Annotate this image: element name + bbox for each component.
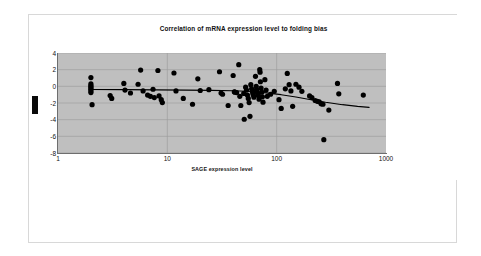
scatter-point bbox=[171, 70, 176, 75]
scatter-point bbox=[276, 97, 281, 102]
chart-title: Correlation of mRNA expression level to … bbox=[29, 24, 458, 33]
y-axis-tick-label: -6 bbox=[34, 133, 56, 140]
scatter-point bbox=[242, 117, 247, 122]
scatter-point bbox=[181, 96, 186, 101]
y-axis-tick-label: 0 bbox=[34, 83, 56, 90]
scatter-point bbox=[258, 79, 263, 84]
scatter-point bbox=[299, 89, 304, 94]
scatter-point bbox=[288, 88, 293, 93]
scatter-point bbox=[152, 95, 157, 100]
scatter-point bbox=[109, 96, 114, 101]
scatter-point bbox=[321, 137, 326, 142]
scatter-point bbox=[150, 87, 155, 92]
scatter-point bbox=[272, 89, 277, 94]
x-axis-line bbox=[58, 153, 387, 154]
scatter-point bbox=[231, 73, 236, 78]
scatter-point bbox=[89, 102, 94, 107]
scatter-point bbox=[190, 102, 195, 107]
scatter-point bbox=[326, 107, 331, 112]
horizontal-gridlines bbox=[58, 53, 386, 153]
scatter-point bbox=[217, 69, 222, 74]
y-axis-tick-label: -2 bbox=[34, 100, 56, 107]
y-axis-tick-label: -8 bbox=[34, 150, 56, 157]
scatter-point bbox=[285, 71, 290, 76]
scatter-point bbox=[155, 68, 160, 73]
scatter-point bbox=[361, 92, 366, 97]
scatter-point bbox=[160, 100, 165, 105]
y-axis-tick-label: 2 bbox=[34, 66, 56, 73]
scatter-point bbox=[336, 91, 341, 96]
scatter-point bbox=[226, 103, 231, 108]
scatter-point bbox=[257, 70, 262, 75]
scatter-point bbox=[260, 94, 265, 99]
scatter-point bbox=[335, 81, 340, 86]
scatter-point bbox=[247, 100, 252, 105]
scatter-point bbox=[135, 82, 140, 87]
scatter-point bbox=[173, 88, 178, 93]
document-page-frame: Correlation of mRNA expression level to … bbox=[28, 14, 457, 243]
scatter-point bbox=[262, 77, 267, 82]
scatter-point bbox=[138, 67, 143, 72]
x-axis-tick-label: 100 bbox=[271, 155, 282, 163]
x-axis-tick-label: 1000 bbox=[379, 155, 393, 163]
scatter-point bbox=[263, 87, 268, 92]
scatter-point bbox=[238, 103, 243, 108]
x-axis-tick-label: 1 bbox=[56, 155, 60, 163]
x-axis-tick-label: 10 bbox=[164, 155, 171, 163]
scatter-point bbox=[220, 92, 225, 97]
scatter-point bbox=[253, 74, 258, 79]
scatter-point bbox=[198, 88, 203, 93]
scatter-point bbox=[122, 87, 127, 92]
scatter-point bbox=[283, 86, 288, 91]
scatter-point bbox=[244, 87, 249, 92]
scatter-plot-svg bbox=[58, 53, 386, 153]
scatter-point bbox=[121, 81, 126, 86]
x-axis-tick-labels: 1101001000 bbox=[58, 155, 386, 165]
scatter-point bbox=[247, 114, 252, 119]
scatter-point bbox=[320, 102, 325, 107]
y-axis-tick-label: -4 bbox=[34, 116, 56, 123]
scatter-point bbox=[236, 62, 241, 67]
scatter-point bbox=[140, 88, 145, 93]
scatter-point bbox=[279, 106, 284, 111]
scatter-point bbox=[290, 104, 295, 109]
scatter-points bbox=[88, 62, 366, 142]
plot-area[interactable] bbox=[58, 53, 386, 153]
x-axis-title: SAGE expression level bbox=[58, 166, 386, 172]
scatter-point bbox=[195, 76, 200, 81]
chart-object[interactable]: Correlation of mRNA expression level to … bbox=[29, 15, 458, 180]
scatter-point bbox=[206, 87, 211, 92]
y-axis-tick-label: 4 bbox=[34, 50, 56, 57]
y-axis-tick-labels: 420-2-4-6-8 bbox=[32, 53, 56, 153]
scatter-point bbox=[88, 75, 93, 80]
scatter-point bbox=[260, 100, 265, 105]
scatter-point bbox=[88, 90, 93, 95]
scatter-point bbox=[128, 90, 133, 95]
scatter-point bbox=[287, 82, 292, 87]
